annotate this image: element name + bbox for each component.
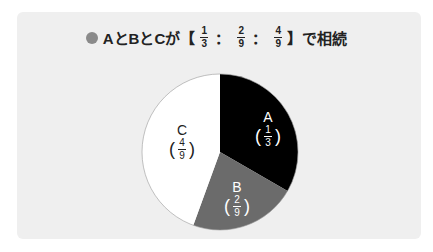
label-a: A (13) bbox=[243, 110, 293, 148]
label-b: B (29) bbox=[212, 180, 262, 218]
label-c: C (49) bbox=[157, 123, 207, 161]
